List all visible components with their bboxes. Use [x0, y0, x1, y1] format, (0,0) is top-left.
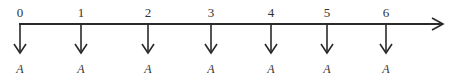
cash-flow-label: A	[76, 62, 85, 76]
cash-flow-label: A	[322, 62, 331, 76]
period-label: 6	[383, 5, 390, 20]
cash-flow-label: A	[143, 62, 152, 76]
period-6: 6A	[380, 5, 392, 76]
period-5: 5A	[321, 5, 333, 76]
period-4: 4A	[265, 5, 277, 76]
period-2: 2A	[142, 5, 154, 76]
cash-flow-label: A	[266, 62, 275, 76]
cash-flow-label: A	[206, 62, 215, 76]
period-label: 3	[208, 5, 215, 20]
cash-flow-timeline: 0A1A2A3A4A5A6A	[0, 0, 454, 84]
cash-flow-label: A	[381, 62, 390, 76]
period-label: 1	[78, 5, 85, 20]
period-label: 4	[268, 5, 275, 20]
period-3: 3A	[205, 5, 217, 76]
period-0: 0A	[14, 5, 26, 76]
period-label: 5	[324, 5, 331, 20]
period-label: 0	[17, 5, 24, 20]
periods: 0A1A2A3A4A5A6A	[14, 5, 392, 76]
period-label: 2	[145, 5, 152, 20]
cash-flow-label: A	[15, 62, 24, 76]
period-1: 1A	[75, 5, 87, 76]
